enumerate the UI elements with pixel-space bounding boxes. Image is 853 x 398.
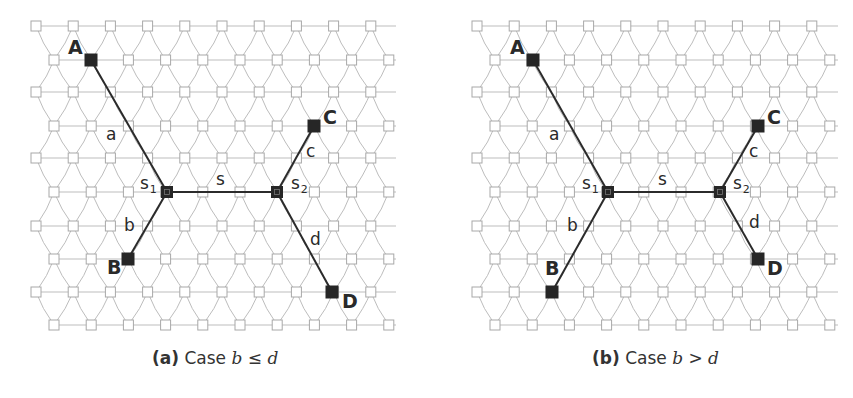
- lattice-node: [788, 187, 798, 197]
- lattice-node: [695, 221, 705, 231]
- lattice-node: [309, 187, 319, 197]
- lattice-node: [217, 21, 227, 31]
- lattice-node: [68, 221, 78, 231]
- lattice-node: [695, 287, 705, 297]
- lattice-node: [527, 320, 537, 330]
- lattice-node: [291, 87, 301, 97]
- edge-label-s: s: [658, 169, 667, 189]
- lattice-node: [272, 254, 282, 264]
- lattice-node: [788, 254, 798, 264]
- lattice-node: [770, 221, 780, 231]
- lattice-node: [31, 153, 41, 163]
- lattice-node: [180, 221, 190, 231]
- caption-tag: (b): [592, 348, 620, 368]
- lattice-node: [384, 55, 394, 65]
- lattice-node: [713, 320, 723, 330]
- terminal-label-A: A: [510, 36, 525, 58]
- lattice-node: [676, 320, 686, 330]
- lattice-node: [770, 21, 780, 31]
- lattice-node: [217, 287, 227, 297]
- terminal-A: [85, 54, 98, 67]
- lattice-node: [825, 320, 835, 330]
- lattice-node: [658, 21, 668, 31]
- lattice-node: [272, 320, 282, 330]
- lattice-node: [347, 320, 357, 330]
- lattice-node: [658, 221, 668, 231]
- lattice-node: [527, 254, 537, 264]
- terminal-D: [752, 253, 765, 266]
- lattice-node: [254, 287, 264, 297]
- caption-word: Case: [184, 348, 226, 368]
- lattice-node: [564, 320, 574, 330]
- lattice-node: [695, 87, 705, 97]
- lattice-node: [366, 87, 376, 97]
- lattice-node: [807, 153, 817, 163]
- edge-label-b: b: [567, 215, 578, 235]
- tree-edge-d: [277, 192, 332, 292]
- lattice-node: [639, 254, 649, 264]
- lattice-node: [472, 21, 482, 31]
- lattice-node: [291, 287, 301, 297]
- lattice-node: [490, 254, 500, 264]
- terminal-D: [326, 286, 339, 299]
- steiner-label-s2: s2: [733, 173, 750, 196]
- lattice-node: [180, 21, 190, 31]
- tree-edge-b: [552, 192, 608, 292]
- caption-word: Case: [625, 348, 667, 368]
- lattice-node: [68, 287, 78, 297]
- terminal-B: [122, 253, 135, 266]
- terminal-label-D: D: [767, 257, 783, 279]
- lattice-node: [807, 87, 817, 97]
- lattice-node: [272, 55, 282, 65]
- lattice-node: [347, 254, 357, 264]
- lattice-node: [123, 55, 133, 65]
- caption-var-d: d: [267, 348, 278, 368]
- lattice-node: [347, 121, 357, 131]
- lattice-node: [198, 254, 208, 264]
- lattice-node: [509, 21, 519, 31]
- lattice-node: [180, 153, 190, 163]
- lattice-node: [105, 287, 115, 297]
- lattice-node: [198, 320, 208, 330]
- lattice-node: [490, 55, 500, 65]
- lattice-node: [329, 87, 339, 97]
- edge-label-a: a: [549, 124, 559, 144]
- lattice-node: [254, 221, 264, 231]
- lattice-node: [235, 121, 245, 131]
- lattice-node: [825, 121, 835, 131]
- caption-panel-b: (b) Case b > d: [592, 348, 719, 368]
- lattice-node: [750, 187, 760, 197]
- lattice-node: [68, 87, 78, 97]
- lattice-node: [347, 187, 357, 197]
- panel-a-lattice: abscds1s2ABCD: [31, 21, 396, 330]
- steiner-point-2: [271, 186, 283, 198]
- lattice-node: [732, 287, 742, 297]
- lattice-node: [825, 187, 835, 197]
- lattice-node: [621, 221, 631, 231]
- lattice-node: [658, 153, 668, 163]
- lattice-node: [366, 287, 376, 297]
- lattice-node: [713, 254, 723, 264]
- edge-label-d: d: [749, 212, 760, 232]
- lattice-node: [639, 55, 649, 65]
- figure: abscds1s2ABCD abscds1s2ABCD (a) Case b ≤…: [0, 0, 853, 398]
- terminal-label-A: A: [68, 36, 83, 58]
- lattice-node: [366, 221, 376, 231]
- lattice-node: [31, 221, 41, 231]
- lattice-node: [254, 153, 264, 163]
- lattice-node: [732, 87, 742, 97]
- terminal-label-C: C: [323, 106, 337, 128]
- steiner-label-s1: s1: [140, 173, 157, 196]
- lattice-node: [180, 87, 190, 97]
- caption-tag: (a): [152, 348, 179, 368]
- lattice-node: [788, 121, 798, 131]
- lattice-node: [384, 254, 394, 264]
- steiner-point-2: [714, 186, 726, 198]
- caption-var-d: d: [708, 348, 719, 368]
- lattice-node: [198, 55, 208, 65]
- lattice-node: [105, 153, 115, 163]
- steiner-point-1: [161, 186, 173, 198]
- terminal-label-C: C: [767, 106, 781, 128]
- lattice-node: [564, 187, 574, 197]
- lattice-node: [825, 55, 835, 65]
